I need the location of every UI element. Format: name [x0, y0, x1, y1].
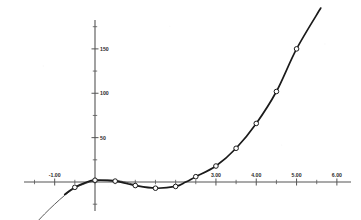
data-point-marker	[294, 47, 299, 52]
x-tick-label: 6.00	[332, 172, 342, 178]
chart-background	[0, 0, 361, 220]
data-point-marker	[214, 164, 219, 169]
data-point-marker	[153, 186, 158, 191]
data-point-marker	[73, 185, 78, 190]
y-tick-label: 100	[100, 90, 109, 96]
data-point-marker	[93, 178, 98, 183]
x-tick-label: 4.00	[251, 172, 261, 178]
data-point-marker	[234, 146, 239, 151]
data-point-marker	[254, 121, 259, 126]
y-tick-label: 50	[100, 135, 106, 141]
x-tick-label: 5.00	[292, 172, 302, 178]
x-tick-label: -1.00	[49, 172, 61, 178]
x-tick-label: 3.00	[211, 172, 221, 178]
data-point-marker	[193, 174, 198, 179]
data-point-marker	[113, 179, 118, 184]
y-tick-label: 150	[100, 46, 109, 52]
chart-plot-area: -1.003.004.005.006.00 50100150	[0, 0, 361, 220]
data-point-marker	[133, 183, 138, 188]
data-point-marker	[274, 89, 279, 94]
data-point-marker	[173, 184, 178, 189]
chart-svg: -1.003.004.005.006.00 50100150	[0, 0, 361, 220]
